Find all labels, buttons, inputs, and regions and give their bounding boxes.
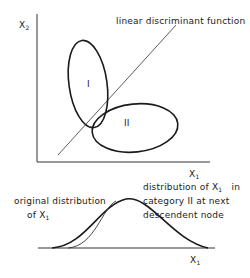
bottom-x-axis-label: X1 xyxy=(190,255,200,268)
category-II-distribution-label-line2: category II at next xyxy=(143,196,229,207)
category-II-label: II xyxy=(124,118,130,129)
discriminant-line-label: linear discriminant function xyxy=(116,16,245,27)
original-distribution-label: original distribution xyxy=(14,196,106,207)
category-II-distribution-label: distribution of X1 in xyxy=(143,182,240,195)
x-axis-label: X1 xyxy=(189,169,199,182)
category-II-ellipse xyxy=(90,100,181,157)
original-distribution-label-line2: of X1 xyxy=(27,210,50,223)
diagram-canvas xyxy=(0,0,250,278)
category-I-label: I xyxy=(87,79,90,90)
y-axis-label: X2 xyxy=(19,20,29,33)
category-II-distribution-label-line3: descendent node xyxy=(143,210,224,221)
